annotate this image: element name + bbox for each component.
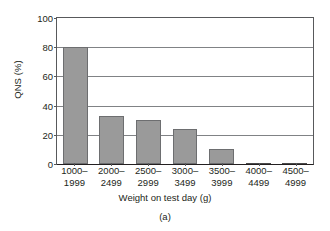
x-axis-tick-mark (148, 163, 149, 166)
y-axis-tick-label: 80 (17, 43, 53, 53)
x-axis-tick-mark (222, 163, 223, 166)
x-axis-tick-line: 3499 (167, 177, 204, 189)
x-axis-tick-line: 3999 (203, 177, 240, 189)
x-axis-tick-line: 1000– (56, 165, 93, 177)
x-axis-tick-mark (74, 163, 75, 166)
bar (173, 129, 198, 164)
bar-slot (276, 18, 313, 164)
bar-series (57, 18, 313, 164)
x-axis-tick-labels: 1000–19992000–24992500–29993000–34993500… (56, 165, 314, 188)
y-axis-tick-label: 60 (17, 72, 53, 82)
plot-area: 020406080100 (56, 17, 314, 165)
x-axis-tick-line: 3500– (203, 165, 240, 177)
x-axis-tick-mark (259, 163, 260, 166)
x-axis-tick-line: 2999 (130, 177, 167, 189)
x-axis-tick-line: 3000– (167, 165, 204, 177)
y-axis-tick-label: 40 (17, 102, 53, 112)
x-axis-tick-line: 2000– (93, 165, 130, 177)
x-axis-tick-line: 2499 (93, 177, 130, 189)
x-axis-tick-label: 1000–1999 (56, 165, 93, 188)
x-axis-label: Weight on test day (g) (0, 192, 330, 203)
bar-slot (130, 18, 167, 164)
bar-slot (94, 18, 131, 164)
bar (136, 120, 161, 164)
x-axis-tick-label: 3000–3499 (167, 165, 204, 188)
bar (63, 47, 88, 164)
bar (99, 116, 124, 164)
bar-slot (57, 18, 94, 164)
x-axis-tick-line: 4999 (277, 177, 314, 189)
x-axis-tick-label: 4000–4499 (240, 165, 277, 188)
y-axis-tick-label: 0 (17, 160, 53, 170)
figure-caption: (a) (0, 211, 330, 222)
x-axis-tick-mark (296, 163, 297, 166)
x-axis-tick-label: 2500–2999 (130, 165, 167, 188)
x-axis-tick-mark (185, 163, 186, 166)
y-axis-tick-label: 100 (17, 14, 53, 24)
x-axis-tick-line: 4499 (240, 177, 277, 189)
x-axis-tick-label: 3500–3999 (203, 165, 240, 188)
x-axis-tick-line: 4000– (240, 165, 277, 177)
bar-slot (203, 18, 240, 164)
x-axis-tick-mark (111, 163, 112, 166)
figure-panel-a: QNS (%) 020406080100 1000–19992000–24992… (0, 0, 330, 231)
x-axis-tick-label: 4500–4999 (277, 165, 314, 188)
bar (209, 149, 234, 164)
bar-slot (167, 18, 204, 164)
x-axis-tick-label: 2000–2499 (93, 165, 130, 188)
x-axis-tick-line: 4500– (277, 165, 314, 177)
x-axis-tick-line: 2500– (130, 165, 167, 177)
x-axis-tick-line: 1999 (56, 177, 93, 189)
y-axis-tick-label: 20 (17, 131, 53, 141)
bar-slot (240, 18, 277, 164)
